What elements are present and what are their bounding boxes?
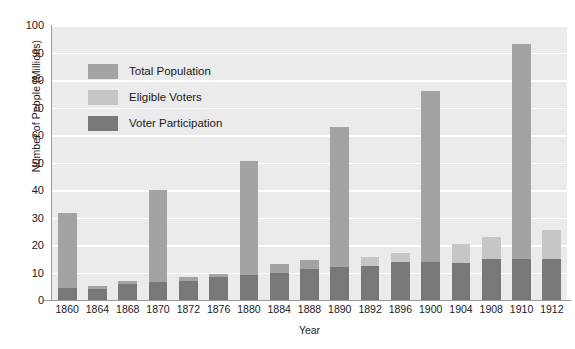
bar-chart: Number of People (Millions) 010203040506…: [0, 0, 575, 349]
y-tick-label: 70: [2, 102, 44, 114]
bar-group[interactable]: [542, 25, 561, 300]
x-tick-label: 1880: [237, 303, 260, 315]
bar-group[interactable]: [240, 25, 259, 300]
bar-segment-voter-participation[interactable]: [240, 275, 259, 300]
bar-segment-voter-participation[interactable]: [270, 273, 289, 301]
bar-segment-voter-participation[interactable]: [149, 282, 168, 300]
x-axis-line: [44, 300, 571, 301]
x-tick-label: 1860: [55, 303, 78, 315]
x-tick-label: 1900: [419, 303, 442, 315]
x-tick-label: 1872: [177, 303, 200, 315]
bar-segment-voter-participation[interactable]: [330, 267, 349, 300]
y-tick-label: 100: [2, 19, 44, 31]
y-tick-label: 0: [2, 294, 44, 306]
x-axis-tick-labels: 1860186418681870187218761880188418881890…: [52, 303, 567, 323]
bar-segment-voter-participation[interactable]: [361, 266, 380, 300]
x-tick-label: 1912: [540, 303, 563, 315]
x-tick-label: 1890: [328, 303, 351, 315]
x-axis-title: Year: [52, 324, 567, 336]
bar-segment-voter-participation[interactable]: [118, 284, 137, 300]
x-tick-label: 1870: [146, 303, 169, 315]
y-tick-label: 20: [2, 239, 44, 251]
legend-swatch-icon: [88, 64, 118, 79]
y-tick-label: 30: [2, 212, 44, 224]
bar-group[interactable]: [482, 25, 501, 300]
legend-swatch-icon: [88, 116, 118, 131]
y-tick-label: 40: [2, 184, 44, 196]
legend-label: Voter Participation: [129, 117, 222, 129]
bar-segment-voter-participation[interactable]: [391, 262, 410, 300]
y-tick-label: 10: [2, 267, 44, 279]
bar-segment-voter-participation[interactable]: [300, 269, 319, 300]
x-tick-label: 1908: [480, 303, 503, 315]
legend-label: Eligible Voters: [129, 91, 202, 103]
y-tick-label: 80: [2, 74, 44, 86]
x-tick-label: 1910: [510, 303, 533, 315]
x-tick-label: 1904: [449, 303, 472, 315]
bar-group[interactable]: [58, 25, 77, 300]
bar-group[interactable]: [512, 25, 531, 300]
x-tick-label: 1884: [268, 303, 291, 315]
bar-segment-voter-participation[interactable]: [209, 277, 228, 300]
y-tick-label: 60: [2, 129, 44, 141]
bar-group[interactable]: [452, 25, 471, 300]
x-tick-label: 1868: [116, 303, 139, 315]
x-tick-label: 1892: [358, 303, 381, 315]
bar-segment-voter-participation[interactable]: [421, 262, 440, 300]
legend-item[interactable]: Total Population: [88, 58, 222, 84]
legend-label: Total Population: [129, 65, 211, 77]
bar-segment-voter-participation[interactable]: [482, 259, 501, 300]
bar-segment-voter-participation[interactable]: [179, 281, 198, 300]
bar-segment-voter-participation[interactable]: [512, 259, 531, 300]
bar-group[interactable]: [270, 25, 289, 300]
bar-group[interactable]: [300, 25, 319, 300]
bar-group[interactable]: [421, 25, 440, 300]
x-tick-label: 1876: [207, 303, 230, 315]
x-tick-label: 1888: [298, 303, 321, 315]
bar-group[interactable]: [391, 25, 410, 300]
bar-segment-voter-participation[interactable]: [542, 259, 561, 300]
bar-group[interactable]: [330, 25, 349, 300]
y-axis-tick-labels: 0102030405060708090100: [0, 0, 50, 349]
bar-segment-voter-participation[interactable]: [88, 289, 107, 300]
chart-legend: Total PopulationEligible VotersVoter Par…: [88, 58, 222, 136]
bar-group[interactable]: [361, 25, 380, 300]
bar-segment-voter-participation[interactable]: [452, 263, 471, 300]
x-tick-label: 1864: [86, 303, 109, 315]
legend-swatch-icon: [88, 90, 118, 105]
legend-item[interactable]: Voter Participation: [88, 110, 222, 136]
x-tick-label: 1896: [389, 303, 412, 315]
bar-segment-voter-participation[interactable]: [58, 288, 77, 300]
y-tick-label: 50: [2, 157, 44, 169]
legend-item[interactable]: Eligible Voters: [88, 84, 222, 110]
y-tick-label: 90: [2, 47, 44, 59]
